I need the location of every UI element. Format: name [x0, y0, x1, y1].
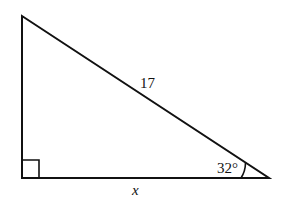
triangle-figure	[0, 0, 289, 204]
right-triangle	[22, 16, 269, 178]
hypotenuse-label: 17	[140, 76, 155, 91]
right-angle-marker	[22, 160, 39, 178]
triangle-diagram: 17 32° x	[0, 0, 289, 204]
angle-label: 32°	[217, 161, 238, 176]
angle-arc	[241, 163, 246, 178]
base-label: x	[132, 183, 139, 198]
